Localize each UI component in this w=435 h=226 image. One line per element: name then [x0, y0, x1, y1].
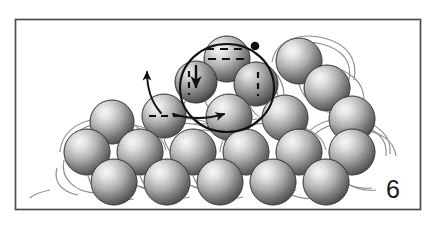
atom-front-row-4	[250, 159, 296, 205]
atom-front-row-3	[197, 159, 243, 205]
figure-panel: 6	[0, 0, 435, 226]
atomic-model-illustration: 6	[0, 0, 435, 226]
atom-front-row-2	[144, 159, 190, 205]
atom-front-row-5	[303, 159, 349, 205]
panel-label: 6	[386, 175, 400, 203]
ring-origin-dot	[251, 42, 260, 51]
atom-front-row-1	[91, 159, 137, 205]
